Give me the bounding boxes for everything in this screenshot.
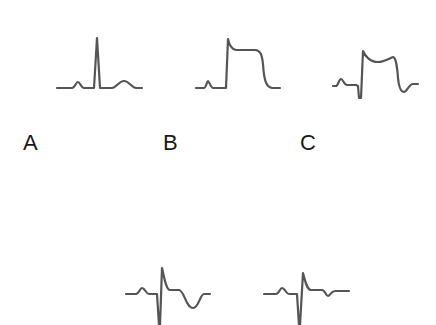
- ecg-figure: [0, 0, 436, 325]
- panel-label-b: B: [163, 132, 178, 154]
- ecg-trace-e: [264, 273, 349, 325]
- ecg-trace-d: [126, 268, 210, 325]
- panel-label-c: C: [300, 132, 316, 154]
- panel-label-a: A: [23, 132, 38, 154]
- ecg-trace-c: [333, 51, 418, 98]
- ecg-trace-a: [57, 38, 142, 88]
- ecg-trace-b: [196, 39, 280, 88]
